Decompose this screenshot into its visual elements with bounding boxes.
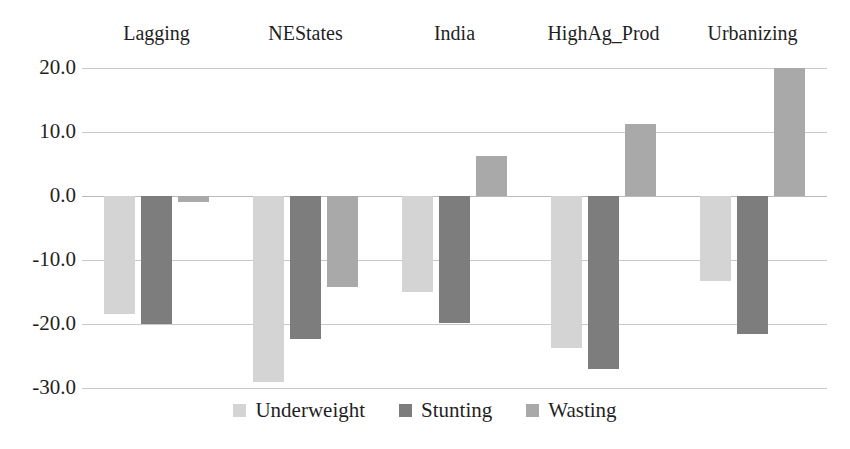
bar-wasting-india[interactable] [476,156,507,196]
bar-stunting-lagging[interactable] [141,196,172,324]
bar-underweight-urbanizing[interactable] [700,196,731,281]
bar-stunting-india[interactable] [439,196,470,323]
category-label-4: Urbanizing [660,18,845,48]
bar-wasting-lagging[interactable] [178,196,209,202]
bar-underweight-india[interactable] [402,196,433,292]
legend-item-underweight[interactable]: Underweight [233,400,365,421]
bar-stunting-urbanizing[interactable] [737,196,768,334]
bar-underweight-highag_prod[interactable] [551,196,582,348]
y-tick-label-1: 10.0 [2,121,76,142]
bar-group [700,68,805,388]
bar-group [551,68,656,388]
y-tick-label-3: -10.0 [2,249,76,270]
legend-swatch-icon-stunting [399,404,412,417]
bar-wasting-highag_prod[interactable] [625,124,656,196]
bar-wasting-urbanizing[interactable] [774,68,805,196]
legend-label-wasting: Wasting [548,400,616,421]
bar-group [253,68,358,388]
y-tick-label-0: 20.0 [2,57,76,78]
bar-group [104,68,209,388]
bar-chart: Lagging NEStates India HighAg_Prod Urban… [0,0,850,449]
bar-stunting-highag_prod[interactable] [588,196,619,369]
y-tick-label-4: -20.0 [2,313,76,334]
y-axis: 20.0 10.0 0.0 -10.0 -20.0 -30.0 [0,68,76,388]
bar-stunting-nestates[interactable] [290,196,321,339]
y-tick-label-2: 0.0 [2,185,76,206]
bar-underweight-lagging[interactable] [104,196,135,314]
bar-group [402,68,507,388]
plot-area [82,68,827,388]
y-tick-label-5: -30.0 [2,377,76,398]
bar-wasting-nestates[interactable] [327,196,358,287]
category-label-row: Lagging NEStates India HighAg_Prod Urban… [82,18,827,52]
legend-label-stunting: Stunting [421,400,492,421]
legend: Underweight Stunting Wasting [0,400,850,421]
legend-swatch-icon-wasting [526,404,539,417]
bar-underweight-nestates[interactable] [253,196,284,382]
legend-item-wasting[interactable]: Wasting [526,400,616,421]
legend-swatch-icon-underweight [233,404,246,417]
gridline-5 [82,388,827,389]
legend-item-stunting[interactable]: Stunting [399,400,492,421]
legend-label-underweight: Underweight [255,400,365,421]
